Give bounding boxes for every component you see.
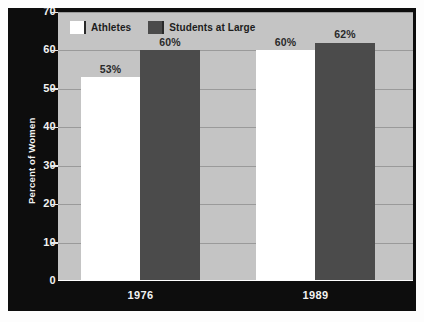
value-label-1989-athletes: 60% [256, 36, 315, 48]
chart-legend: Athletes Students at Large [70, 21, 255, 34]
y-tick-mark-50 [51, 88, 58, 90]
chart-panel: 53% 60% 60% 62% Athletes Students at Lar… [8, 8, 416, 311]
legend-item-athletes[interactable]: Athletes [70, 21, 131, 34]
bar-1989-students-at-large[interactable] [315, 43, 375, 281]
legend-item-students-at-large[interactable]: Students at Large [148, 21, 255, 34]
legend-label-students-at-large: Students at Large [169, 22, 255, 33]
bar-1989-athletes[interactable] [256, 50, 315, 281]
gridline-70 [58, 12, 413, 13]
y-tick-mark-40 [51, 127, 58, 129]
white-swatch-icon [70, 21, 86, 34]
y-axis-title-wrap: Percent of Women [12, 8, 30, 281]
bar-1976-students-at-large[interactable] [140, 50, 200, 281]
x-axis: 1976 1989 [58, 281, 413, 311]
legend-label-athletes: Athletes [91, 22, 131, 33]
y-tick-mark-10 [51, 242, 58, 244]
x-tick-label-1989: 1989 [256, 289, 375, 301]
plot-area: 53% 60% 60% 62% Athletes Students at Lar… [58, 12, 413, 281]
value-label-1989-students-at-large: 62% [315, 28, 375, 40]
dark-gray-swatch-icon [148, 21, 164, 34]
y-tick-mark-70 [51, 12, 58, 14]
y-tick-mark-20 [51, 204, 58, 206]
bar-1976-athletes[interactable] [81, 77, 140, 281]
x-tick-label-1976: 1976 [81, 289, 200, 301]
y-tick-mark-60 [51, 50, 58, 52]
value-label-1976-students-at-large: 60% [140, 36, 200, 48]
y-tick-mark-30 [51, 165, 58, 167]
chart-figure: 53% 60% 60% 62% Athletes Students at Lar… [0, 0, 424, 322]
y-axis-title: Percent of Women [26, 118, 37, 204]
value-label-1976-athletes: 53% [81, 63, 140, 75]
